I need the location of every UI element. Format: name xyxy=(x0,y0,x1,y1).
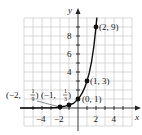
y-axis-arrow-icon xyxy=(76,8,81,14)
svg-text:): ) xyxy=(68,90,71,100)
point-label-1-3: (1, 3) xyxy=(90,76,110,86)
svg-text:3: 3 xyxy=(64,96,67,102)
point-label-m2-1-9: (−2, 1 9 ) xyxy=(6,88,39,102)
y-tick-label: 4 xyxy=(67,67,72,77)
svg-text:1: 1 xyxy=(64,88,67,94)
y-tick-label: 6 xyxy=(67,49,72,59)
x-tick-label: 2 xyxy=(94,114,99,124)
x-tick-label: −4 xyxy=(36,114,46,124)
x-tick-label: −2 xyxy=(54,114,64,124)
svg-text:(−1,: (−1, xyxy=(41,90,56,100)
leader-line-m2 xyxy=(37,101,58,107)
svg-text:): ) xyxy=(36,90,39,100)
exponential-graph: y x −4 −2 2 4 8 6 4 (2, 9) (1, 3) (0, 1)… xyxy=(0,0,142,135)
y-tick-label: 8 xyxy=(67,31,72,41)
point-1 xyxy=(85,79,90,84)
svg-text:(−2,: (−2, xyxy=(6,90,21,100)
x-axis-label: x xyxy=(134,112,139,122)
point-m1 xyxy=(67,103,72,108)
point-0 xyxy=(76,97,81,102)
point-m2 xyxy=(58,105,63,110)
x-tick-label: 4 xyxy=(112,114,117,124)
y-axis-label: y xyxy=(67,5,72,15)
svg-text:1: 1 xyxy=(32,88,35,94)
point-2 xyxy=(94,25,99,30)
point-label-0-1: (0, 1) xyxy=(82,94,102,104)
point-label-2-9: (2, 9) xyxy=(99,22,119,32)
svg-text:9: 9 xyxy=(32,96,35,102)
x-axis-arrow-icon xyxy=(135,106,141,111)
